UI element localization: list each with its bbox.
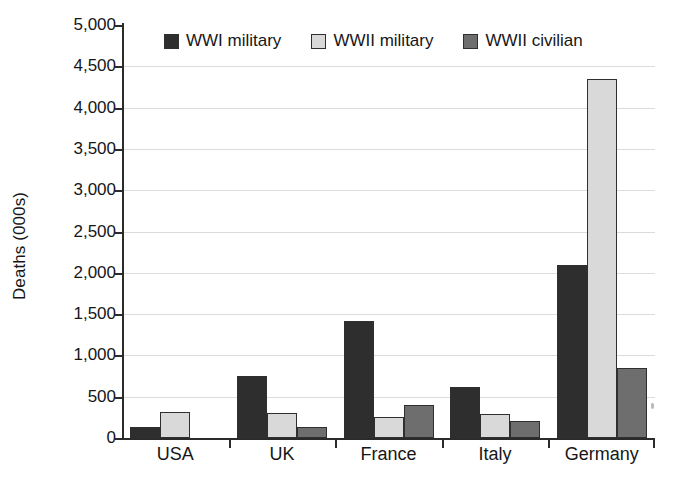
- legend-swatch-icon: [463, 34, 478, 49]
- y-axis-tick-label: 3,500: [38, 139, 116, 159]
- bar: [404, 405, 434, 438]
- legend-label: WWI military: [186, 31, 281, 51]
- x-axis-line: [122, 438, 655, 440]
- y-axis-tick-label: 2,000: [38, 263, 116, 283]
- legend-swatch-icon: [311, 34, 326, 49]
- x-axis-category-label: UK: [269, 444, 294, 465]
- legend-label: WWII civilian: [485, 31, 582, 51]
- y-axis-tick-labels: 5,0004,5004,0003,5003,0002,5002,0001,500…: [38, 25, 116, 438]
- x-axis-category-label: USA: [157, 444, 194, 465]
- bar: [510, 421, 540, 438]
- y-axis-tick-label: 4,000: [38, 98, 116, 118]
- legend-item: WWII military: [311, 31, 433, 51]
- bar: [297, 427, 327, 438]
- x-axis-category-labels: USAUKFranceItalyGermany: [122, 444, 655, 474]
- bar: [480, 414, 510, 438]
- x-axis-category-label: Italy: [479, 444, 512, 465]
- bar-chart: Deaths (000s) 5,0004,5004,0003,5003,0002…: [0, 0, 690, 492]
- bars-layer: [122, 25, 655, 438]
- bar: [130, 427, 160, 438]
- y-axis-tick-label: 3,000: [38, 180, 116, 200]
- bar: [617, 368, 647, 438]
- legend-label: WWII military: [333, 31, 433, 51]
- y-axis-zero-label: 0: [38, 428, 116, 448]
- y-axis-tick-label: 5,000: [38, 15, 116, 35]
- bar: [267, 413, 297, 438]
- y-axis-title: Deaths (000s): [0, 0, 40, 492]
- x-axis-category-label: France: [360, 444, 416, 465]
- bar: [587, 79, 617, 438]
- legend-item: WWII civilian: [463, 31, 582, 51]
- scan-artifact-speck: [651, 403, 654, 409]
- plot-area: [122, 25, 655, 438]
- y-axis-tick-label: 4,500: [38, 56, 116, 76]
- bar: [557, 265, 587, 438]
- bar: [374, 417, 404, 438]
- y-axis-tick-label: 2,500: [38, 222, 116, 242]
- y-axis-tick-label: 500: [38, 387, 116, 407]
- bar: [450, 387, 480, 438]
- x-axis-category-label: Germany: [565, 444, 639, 465]
- legend-swatch-icon: [164, 34, 179, 49]
- legend-item: WWI military: [164, 31, 281, 51]
- y-axis-tick-label: 1,500: [38, 304, 116, 324]
- bar: [237, 376, 267, 438]
- chart-legend: WWI militaryWWII militaryWWII civilian: [160, 29, 587, 53]
- bar: [344, 321, 374, 438]
- y-axis-tick-label: 1,000: [38, 345, 116, 365]
- bar: [160, 412, 190, 438]
